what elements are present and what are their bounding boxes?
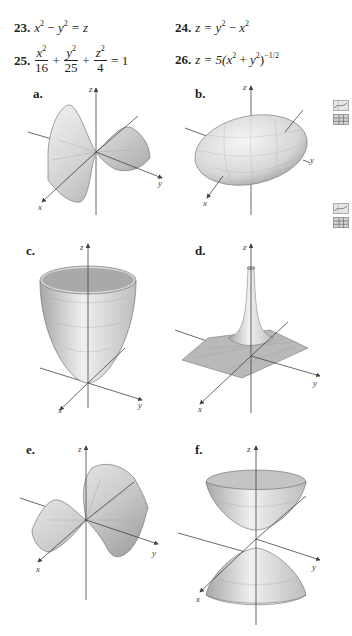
denominator: 25: [64, 61, 78, 75]
exponent: 2: [221, 19, 225, 28]
operator: +: [82, 53, 89, 68]
y-axis-label: y: [310, 155, 314, 165]
graph-e-saddle: z y x: [10, 440, 165, 605]
graph-d-spike: z y x: [170, 238, 320, 413]
fraction-y: y225: [64, 46, 78, 75]
x-axis-label: x: [58, 405, 62, 415]
operator: −: [47, 20, 54, 35]
y-axis-label: y: [312, 378, 317, 388]
y-axis-label: y: [311, 562, 316, 572]
graph-c-paraboloid: z y: [10, 238, 160, 413]
graph-a-saddle: z y x: [10, 80, 170, 215]
rhs: = 1: [111, 53, 128, 68]
graph-b-ellipsoid: z x: [175, 80, 310, 215]
denominator: 16: [35, 61, 49, 75]
problem-26: 26.z = 5(x2 + y2)−1/2: [175, 52, 279, 68]
operator: +: [239, 52, 246, 67]
x-axis-label: x: [35, 564, 40, 574]
x-axis-label: x: [195, 594, 200, 604]
operator: +: [53, 53, 60, 68]
exponent: 2: [245, 19, 249, 28]
z-axis-label: z: [246, 444, 251, 454]
exponent: 2: [40, 19, 44, 28]
exponent: 2: [42, 44, 46, 53]
exponent: 2: [72, 44, 76, 53]
problem-number: 24.: [175, 20, 191, 35]
graph-icon[interactable]: [333, 100, 349, 111]
table-icon[interactable]: [333, 217, 349, 228]
denominator: 4: [94, 61, 107, 75]
z-axis-label: z: [242, 82, 247, 92]
graph-f-hyperboloid: z y x: [170, 440, 320, 636]
exponent: 2: [64, 19, 68, 28]
exponent: −1/2: [264, 51, 279, 60]
fraction-x: x216: [35, 46, 49, 75]
x-axis-label: x: [197, 404, 202, 413]
exponent: 2: [101, 44, 105, 53]
y-axis-label: y: [151, 548, 156, 558]
y-axis-label: y: [137, 400, 142, 410]
problem-23: 23.x2 − y2 = z: [14, 20, 88, 36]
table-icon[interactable]: [333, 114, 349, 125]
problem-24: 24.z = y2 − x2: [175, 20, 249, 36]
fraction-z: z24: [94, 46, 107, 75]
problem-number: 23.: [14, 20, 30, 35]
z-axis-label: z: [77, 444, 82, 454]
x-axis-label: x: [202, 198, 207, 208]
lhs: z = 5(: [195, 52, 226, 67]
z-axis-label: z: [242, 242, 247, 252]
problem-25: 25. x216 + y225 + z24 = 1: [14, 46, 128, 75]
exponent: 2: [232, 51, 236, 60]
x-axis-label: x: [37, 202, 42, 212]
problem-number: 26.: [175, 52, 191, 67]
z-axis-label: z: [88, 84, 93, 94]
graph-icon[interactable]: [333, 203, 349, 214]
rhs: = z: [71, 20, 88, 35]
z-axis-label: z: [79, 242, 84, 252]
lhs: z =: [195, 20, 212, 35]
y-axis-label: y: [157, 178, 162, 188]
problem-number: 25.: [14, 53, 30, 68]
operator: −: [229, 20, 236, 35]
